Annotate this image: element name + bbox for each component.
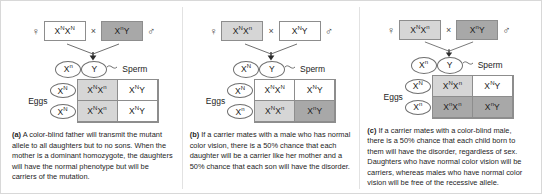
mother-genotype-box: XNXn [221,21,263,41]
sperm-tail-icon [285,63,299,75]
sperm-label: Sperm [300,64,325,74]
sperm-gamete-1: XN [233,61,259,78]
cross-symbol: × [445,25,452,35]
sperm-gamete-label: Xn [419,60,428,70]
egg-gamete-label: XN [57,86,67,96]
punnett-cell: XNXn [77,100,118,122]
sperm-gamete-1: Xn [411,57,437,74]
sperm-gamete-label: Xn [64,64,73,74]
sperm-gamete-label: Y [269,64,275,74]
sperm-label: Sperm [478,60,503,70]
panel-b: ♀XNXn×XNY♂XNYSpermEggsXNXnXNXNXNYXNXnXnY… [182,7,360,189]
egg-gamete-2: Xn [227,104,253,119]
male-symbol-icon: ♂ [325,26,333,37]
punnett-cell: XNXn [254,100,295,122]
punnett-cell: XNY [117,79,158,101]
punnett-cell: XnY [472,96,513,118]
parent-cross-row: ♀XNXN×XnY♂ [31,19,155,43]
female-symbol-icon: ♀ [31,26,39,37]
egg-gamete-column: XNXN [50,80,76,122]
cross-connector-arrow-icon [409,41,489,58]
caption-label: (b) [190,130,199,139]
sperm-gamete-row: XnYSperm [411,57,503,74]
panel-caption-a: (a) A color-blind father will transmit t… [11,130,176,183]
punnett-cell: XnY [294,100,335,122]
father-genotype-box: XnY [456,20,498,40]
offspring-genotype-label: XNXn [265,106,284,116]
caption-label: (a) [12,130,21,139]
punnett-cell: XNXn [432,75,473,97]
mother-genotype-label: XNXn [410,25,429,35]
egg-gamete-1: XN [50,83,76,98]
egg-gamete-label: Xn [236,107,245,117]
parent-cross-row: ♀XNXn×XNY♂ [209,19,333,43]
father-genotype-box: XnY [101,21,143,41]
mother-genotype-label: XNXN [54,26,74,36]
offspring-genotype-label: XNXn [87,85,106,95]
punnett-grid: XNXnXNYXnXnXnY [432,75,514,119]
father-genotype-label: XnY [470,25,485,35]
egg-gamete-1: XN [405,79,431,94]
punnett-cell: XNY [294,79,335,101]
sperm-gamete-label: Y [91,64,97,74]
mother-genotype-label: XNXn [233,26,252,36]
offspring-genotype-label: XNXn [443,81,462,91]
panel-caption-b: (b) If a carrier mates with a male who h… [189,130,354,172]
parent-cross-row: ♀XNXn×XnY♂ [387,19,511,41]
offspring-genotype-label: XNY [129,85,145,95]
egg-gamete-label: XN [413,81,423,91]
father-genotype-label: XnY [114,26,129,36]
sperm-label: Sperm [122,64,147,74]
offspring-genotype-label: XNXn [87,106,106,116]
punnett-grid: XNXnXNYXNXnXNY [77,79,159,123]
punnett-cell: XNXn [77,79,118,101]
egg-gamete-2: XN [50,104,76,119]
eggs-label: Eggs [206,96,225,106]
punnett-square-a: EggsXNXNXNXnXNYXNXnXNY [28,79,158,123]
offspring-genotype-label: XNY [307,85,323,95]
male-symbol-icon: ♂ [502,25,510,36]
caption-text: A color-blind father will transmit the m… [12,130,173,181]
caption-text: If a carrier mates with a male who has n… [190,130,351,171]
punnett-cell: XNY [472,75,513,97]
punnett-cell: XnXn [432,96,473,118]
male-symbol-icon: ♂ [147,26,155,37]
sperm-gamete-2: Y [81,61,107,78]
panel-c: ♀XNXn×XnY♂XnYSpermEggsXNXnXNXnXNYXnXnXnY… [359,7,537,189]
offspring-genotype-label: XnY [307,106,322,116]
cross-connector-arrow-icon [231,43,311,61]
father-genotype-box: XNY [279,21,321,41]
cross-symbol: × [90,26,97,36]
caption-text: If a carrier mates with a color-blind ma… [367,126,522,188]
sperm-gamete-label: XN [241,64,251,74]
egg-gamete-label: Xn [413,102,422,112]
sperm-gamete-label: Y [447,60,453,70]
egg-gamete-2: Xn [405,100,431,115]
panel-a: ♀XNXN×XnY♂XnYSpermEggsXNXNXNXnXNYXNXnXNY… [5,7,182,189]
cross-symbol: × [267,26,274,36]
punnett-cell: XNY [117,100,158,122]
offspring-genotype-label: XnXn [443,102,461,112]
egg-gamete-label: XN [235,86,245,96]
sperm-tail-icon [463,59,477,71]
offspring-genotype-label: XnY [485,102,500,112]
punnett-square-c: EggsXNXnXNXnXNYXnXnXnY [383,75,513,119]
father-genotype-label: XNY [292,26,308,36]
punnett-square-b: EggsXNXnXNXNXNYXNXnXnY [206,79,336,123]
female-symbol-icon: ♀ [387,25,395,36]
female-symbol-icon: ♀ [209,26,217,37]
punnett-grid: XNXNXNYXNXnXnY [254,79,336,123]
sperm-gamete-row: XnYSperm [55,60,147,78]
egg-gamete-1: XN [227,83,253,98]
sperm-gamete-1: Xn [55,61,81,78]
eggs-label: Eggs [383,92,402,102]
punnett-cell: XNXN [254,79,295,101]
egg-gamete-label: XN [57,107,67,117]
mother-genotype-box: XNXn [399,20,441,40]
sperm-tail-icon [107,63,121,75]
eggs-label: Eggs [28,96,47,106]
cross-connector-arrow-icon [53,43,133,61]
mother-genotype-box: XNXN [44,21,86,41]
offspring-genotype-label: XNY [129,106,145,116]
caption-label: (c) [367,126,376,135]
